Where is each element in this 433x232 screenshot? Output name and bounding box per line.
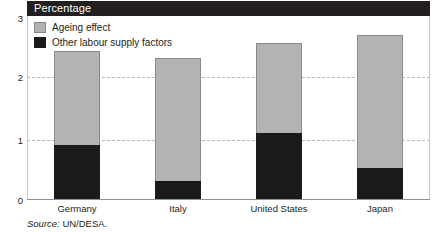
chart-legend: Ageing effect Other labour supply factor… — [34, 20, 172, 50]
y-tick-label-1: 1 — [3, 136, 23, 146]
bar-segment-ageing[interactable] — [155, 58, 201, 180]
source-note: Source: UN/DESA. — [27, 218, 107, 229]
y-tick-label-0: 0 — [3, 196, 23, 206]
bar-stack[interactable] — [54, 51, 100, 200]
legend-label: Ageing effect — [52, 22, 110, 33]
bar-group-japan — [330, 1, 430, 200]
x-tick-label-germany: Germany — [27, 203, 127, 215]
y-tick-label-2: 2 — [3, 73, 23, 83]
bar-segment-ageing[interactable] — [357, 35, 403, 168]
bar-segment-ageing[interactable] — [54, 51, 100, 145]
bar-segment-ageing[interactable] — [256, 43, 302, 133]
legend-swatch-icon — [34, 37, 46, 48]
x-tick-label-japan: Japan — [330, 203, 430, 215]
bar-segment-other[interactable] — [357, 168, 403, 199]
x-tick-label-italy: Italy — [128, 203, 228, 215]
bar-stack[interactable] — [357, 35, 403, 199]
chart-title-bar: Percentage — [27, 1, 430, 16]
legend-item-ageing-effect[interactable]: Ageing effect — [34, 20, 172, 34]
source-text: UN/DESA. — [60, 218, 108, 229]
bar-segment-other[interactable] — [155, 181, 201, 199]
legend-label: Other labour supply factors — [52, 37, 172, 48]
bar-segment-other[interactable] — [54, 145, 100, 199]
x-tick-label-united-states: United States — [229, 203, 329, 215]
x-axis-labels: Germany Italy United States Japan — [27, 203, 430, 217]
bar-group-united-states — [229, 1, 329, 200]
legend-swatch-icon — [34, 22, 46, 33]
chart-title: Percentage — [34, 2, 91, 15]
y-tick-label-3: 3 — [3, 14, 23, 24]
bar-stack[interactable] — [155, 58, 201, 199]
bar-segment-other[interactable] — [256, 133, 302, 199]
legend-item-other-labour-supply-factors[interactable]: Other labour supply factors — [34, 35, 172, 49]
chart-figure: 3 2 1 0 — [0, 0, 433, 232]
y-axis: 3 2 1 0 — [0, 0, 23, 232]
bar-stack[interactable] — [256, 43, 302, 199]
source-prefix: Source: — [27, 218, 60, 229]
